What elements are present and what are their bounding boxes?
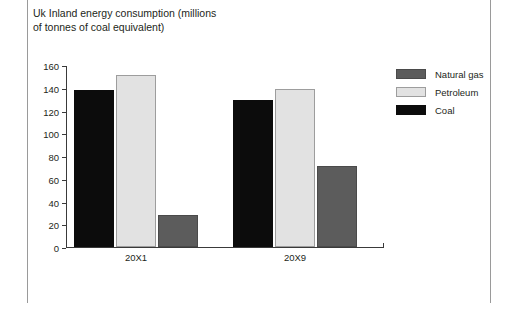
- y-tick-label: 0: [54, 243, 59, 254]
- y-tick-mark: [62, 248, 66, 249]
- bar: [233, 100, 273, 247]
- y-tick-mark: [62, 225, 66, 226]
- y-tick-label: 60: [48, 174, 59, 185]
- y-tick-label: 40: [48, 197, 59, 208]
- legend-item: Natural gas: [396, 66, 488, 82]
- y-tick-mark: [62, 89, 66, 90]
- chart-legend: Natural gasPetroleumCoal: [396, 66, 488, 120]
- y-tick-mark: [62, 66, 66, 67]
- x-axis-line: [66, 247, 384, 248]
- legend-swatch: [396, 69, 426, 79]
- y-tick-mark: [62, 203, 66, 204]
- legend-label: Coal: [435, 105, 455, 116]
- y-tick-label: 140: [43, 83, 59, 94]
- bar: [116, 75, 156, 247]
- legend-item: Coal: [396, 102, 488, 118]
- y-tick-label: 160: [43, 61, 59, 72]
- page-rule-right: [490, 0, 491, 303]
- y-tick-mark: [62, 157, 66, 158]
- bar: [74, 90, 114, 247]
- legend-label: Natural gas: [435, 69, 484, 80]
- legend-item: Petroleum: [396, 84, 488, 100]
- chart-title: Uk Inland energy consumption (millions o…: [33, 6, 223, 34]
- y-tick-label: 120: [43, 106, 59, 117]
- y-tick-mark: [62, 134, 66, 135]
- x-axis-category-label: 20X9: [284, 252, 306, 263]
- bar: [275, 89, 315, 247]
- y-tick-label: 20: [48, 220, 59, 231]
- plot-area: 020406080100120140160 20X120X9: [66, 66, 384, 248]
- y-axis-line: [66, 66, 67, 248]
- x-axis-end-tick: [383, 243, 384, 248]
- y-tick-mark: [62, 180, 66, 181]
- legend-label: Petroleum: [435, 87, 478, 98]
- bar: [317, 166, 357, 247]
- y-tick-label: 100: [43, 129, 59, 140]
- y-tick-mark: [62, 112, 66, 113]
- page-rule-left: [27, 0, 28, 303]
- x-axis-category-label: 20X1: [125, 252, 147, 263]
- legend-swatch: [396, 105, 426, 115]
- legend-swatch: [396, 87, 426, 97]
- bar: [158, 215, 198, 247]
- y-tick-label: 80: [48, 152, 59, 163]
